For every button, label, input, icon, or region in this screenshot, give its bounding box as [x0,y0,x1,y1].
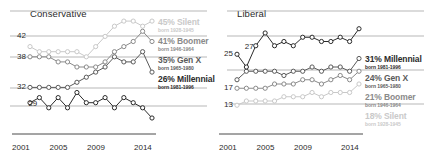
data-point [150,70,154,74]
panel-conservative: Conservative 42383229 2001200520092014 4… [0,0,217,159]
data-point [28,55,32,59]
legend-born-years: born 1965-1980 [158,65,201,71]
data-point [338,35,342,39]
x-axis-tick-label: 2014 [341,143,359,152]
data-point [319,39,323,43]
y-axis-label: 13 [224,100,233,109]
legend-item-gen-x[interactable]: 24% Gen Xborn 1965-1980 [365,74,408,89]
data-point [150,39,154,43]
data-point [254,69,258,73]
data-point [47,55,51,59]
data-point [263,69,267,73]
legend-item-millennial[interactable]: 31% Millennialborn 1981-1996 [365,55,422,70]
legend-value: 26% Millennial [158,75,215,84]
x-axis-tick-label: 2005 [257,143,275,152]
data-point [37,50,41,54]
data-point [272,44,276,48]
inline-data-label: 27 [245,42,254,51]
data-point [319,82,323,86]
data-point [301,78,305,82]
data-point [263,31,267,35]
data-point [75,65,79,69]
legend-item-boomer[interactable]: 41% Boomerborn 1946-1964 [158,37,209,52]
data-point [84,65,88,69]
data-point [112,55,116,59]
data-point [348,39,352,43]
data-point [301,35,305,39]
x-axis-tick-label: 2014 [134,143,152,152]
legend-item-silent[interactable]: 18% Silentborn 1928-1945 [365,112,407,127]
legend-value: 31% Millennial [365,55,422,64]
x-axis-tick-label: 2009 [87,143,105,152]
x-axis-conservative: 2001200520092014 [0,130,217,159]
data-point [291,95,295,99]
data-point [272,82,276,86]
data-point [84,55,88,59]
data-point [244,99,248,103]
data-point [263,86,267,90]
data-point [244,69,248,73]
data-point [357,27,361,31]
data-point [348,78,352,82]
legend-born-years: born 1946-1964 [158,46,209,52]
data-point [348,69,352,73]
y-axis-label: 17 [224,83,233,92]
data-point [94,45,98,49]
data-point [235,103,239,107]
data-point [122,60,126,64]
data-point [37,85,41,89]
legend-item-gen-x[interactable]: 35% Gen Xborn 1965-1980 [158,56,201,71]
legend-item-boomer[interactable]: 21% Boomerborn 1946-1964 [365,93,416,108]
data-point [122,19,126,23]
data-point [131,101,135,105]
data-point [272,99,276,103]
legend-value: 35% Gen X [158,56,201,65]
legend-item-millennial[interactable]: 26% Millennialborn 1981-1996 [158,75,215,90]
y-axis-label: 38 [17,52,26,61]
data-point [84,101,88,105]
data-point [141,29,145,33]
chart-canvas: Conservative 42383229 2001200520092014 4… [0,0,434,159]
data-point [47,106,51,110]
data-point [301,69,305,73]
data-point [65,85,69,89]
data-point [94,101,98,105]
x-axis-liberal: 2001200520092014 [217,130,434,159]
data-point [235,86,239,90]
data-point [282,95,286,99]
data-point [122,96,126,100]
data-point [94,65,98,69]
data-point [263,99,267,103]
x-axis-tick-label: 2005 [50,143,68,152]
y-axis-label: 42 [17,31,26,40]
data-point [310,90,314,94]
data-point [357,69,361,73]
series-millennial [28,90,154,120]
data-point [235,78,239,82]
data-point [122,45,126,49]
data-point [103,96,107,100]
data-point [112,106,116,110]
data-point [65,106,69,110]
data-point [272,69,276,73]
y-axis-label: 32 [17,82,26,91]
data-point [103,60,107,64]
x-axis-tick-label: 2001 [219,143,237,152]
data-point [301,95,305,99]
data-point [329,65,333,69]
data-point [319,95,323,99]
data-point [338,90,342,94]
data-point [282,73,286,77]
data-point [131,19,135,23]
data-point [244,86,248,90]
legend-item-silent[interactable]: 45% Silentborn 1928-1945 [158,18,200,33]
data-point [75,80,79,84]
legend-value: 45% Silent [158,18,200,27]
data-point [291,44,295,48]
data-point [47,50,51,54]
data-point [150,19,154,23]
data-point [112,24,116,28]
series-silent [235,82,361,107]
data-point [141,24,145,28]
data-point [329,78,333,82]
